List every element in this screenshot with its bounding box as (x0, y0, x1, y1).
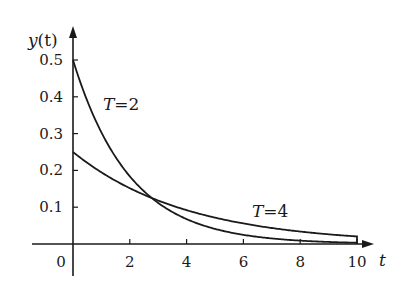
x-axis-arrow-icon (362, 240, 374, 248)
y-axis-arrow-icon (69, 26, 77, 38)
y-tick-label: 0.1 (39, 198, 63, 216)
label-T4: T=4 (252, 201, 288, 221)
y-tick-label: 0.5 (39, 51, 63, 69)
y-axis-label: y(t) (27, 30, 58, 50)
y-tick-label: 0.2 (39, 161, 63, 179)
x-tick-label: 0 (56, 253, 66, 271)
curve-T2 (73, 60, 357, 244)
y-tick-label: 0.3 (39, 125, 63, 143)
x-tick-label: 2 (125, 253, 135, 271)
x-tick-label: 6 (239, 253, 249, 271)
x-axis-label: t (379, 250, 386, 270)
chart: y(t) t 02468100.10.20.30.40.5 T=2 T=4 (0, 0, 409, 294)
x-tick-label: 4 (182, 253, 192, 271)
x-tick-label: 8 (295, 253, 305, 271)
curve-T4 (73, 152, 357, 244)
ticks: 02468100.10.20.30.40.5 (39, 51, 366, 271)
label-T2: T=2 (103, 94, 139, 114)
y-tick-label: 0.4 (39, 88, 63, 106)
x-tick-label: 10 (347, 253, 366, 271)
